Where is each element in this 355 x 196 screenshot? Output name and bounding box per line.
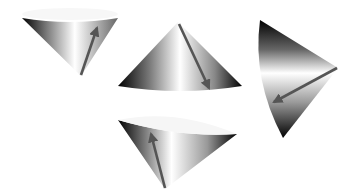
cone-figure [0,0,355,196]
cone-right [258,20,338,138]
cone-top-left [22,8,118,76]
cone-center [118,22,242,91]
cone-bottom [118,116,237,189]
